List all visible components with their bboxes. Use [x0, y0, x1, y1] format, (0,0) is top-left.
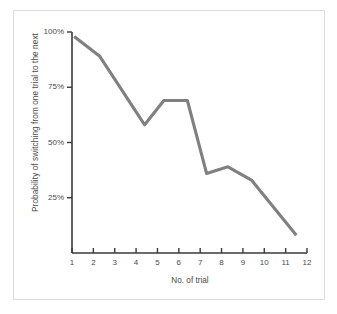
- axes: [67, 32, 307, 253]
- data-series-line: [74, 36, 296, 235]
- line-chart: Probability of switching from one trial …: [0, 0, 337, 314]
- plot-svg: [0, 0, 337, 314]
